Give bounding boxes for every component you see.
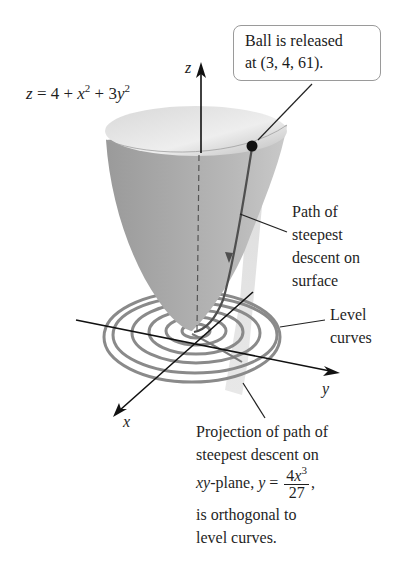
fraction-4x3-over-27: 4x327 xyxy=(284,468,309,501)
z-axis-label: z xyxy=(185,56,191,79)
leader-projection xyxy=(243,383,265,418)
x-axis-label: x xyxy=(123,410,130,433)
path-label: Path of steepest descent on surface xyxy=(292,200,360,292)
leader-level xyxy=(280,320,325,327)
release-callout-line2: at (3, 4, 61). xyxy=(245,52,380,74)
release-point xyxy=(247,141,258,152)
release-callout: Ball is released at (3, 4, 61). xyxy=(233,25,381,81)
level-curves-label: Level curves xyxy=(330,303,372,349)
projection-label: Projection of path of steepest descent o… xyxy=(196,420,328,549)
surface-equation: z = 4 + x2 + 3y2 xyxy=(26,82,130,105)
y-axis-label: y xyxy=(322,377,329,400)
release-callout-line1: Ball is released xyxy=(245,30,380,52)
